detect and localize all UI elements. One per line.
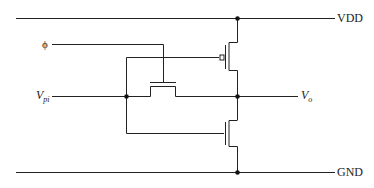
schematic [0,0,374,188]
pmos-bubble [220,55,224,60]
input-junction [124,94,129,99]
nmos-channel [229,121,238,147]
gnd-junction [235,170,240,175]
input-label-sub: pi [43,95,49,104]
output-junction [235,94,240,99]
clock-label: ϕ [42,38,48,50]
gnd-label: GND [337,166,363,178]
vdd-junction [235,16,240,21]
pmos-channel [229,43,238,71]
circuit-diagram: VDD GND ϕ Vpi Vo [0,0,374,188]
clock-wire [52,45,164,83]
pass-channel [146,87,237,97]
vdd-label: VDD [337,12,363,24]
input-label: Vpi [36,89,50,106]
output-label: Vo [301,89,312,106]
output-label-sub: o [308,95,312,104]
